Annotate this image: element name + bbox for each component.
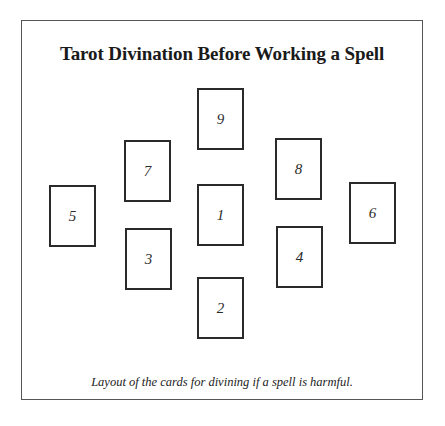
tarot-card-8: 8 bbox=[275, 138, 322, 200]
tarot-card-5: 5 bbox=[49, 185, 96, 247]
clipped-running-header bbox=[150, 0, 300, 3]
tarot-card-1: 1 bbox=[197, 184, 244, 246]
tarot-card-2: 2 bbox=[197, 277, 244, 339]
card-position-label: 6 bbox=[369, 206, 377, 221]
tarot-card-3: 3 bbox=[125, 228, 172, 290]
card-position-label: 3 bbox=[145, 252, 153, 267]
card-position-label: 1 bbox=[217, 208, 225, 223]
card-position-label: 8 bbox=[295, 162, 303, 177]
tarot-card-9: 9 bbox=[197, 88, 244, 150]
card-position-label: 7 bbox=[144, 164, 152, 179]
diagram-title: Tarot Divination Before Working a Spell bbox=[22, 43, 422, 65]
card-position-label: 5 bbox=[69, 209, 77, 224]
card-position-label: 4 bbox=[296, 250, 304, 265]
tarot-card-6: 6 bbox=[349, 182, 396, 244]
card-position-label: 9 bbox=[217, 112, 225, 127]
card-position-label: 2 bbox=[217, 301, 225, 316]
diagram-caption: Layout of the cards for divining if a sp… bbox=[22, 375, 422, 390]
tarot-card-7: 7 bbox=[124, 140, 171, 202]
tarot-card-4: 4 bbox=[276, 226, 323, 288]
